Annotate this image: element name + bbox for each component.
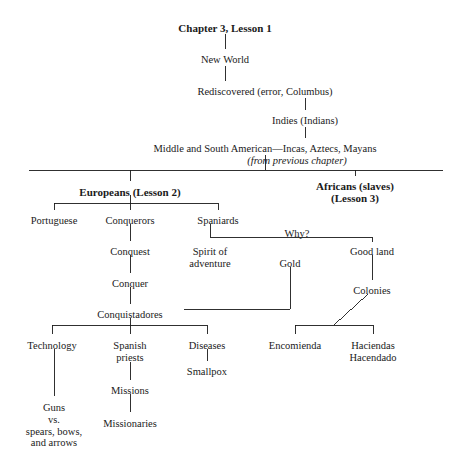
node-portuguese: Portuguese: [31, 215, 78, 227]
node-conquistadores-line: Conquistadores: [97, 309, 162, 321]
node-haciendas-line: Hacendado: [349, 352, 396, 364]
edge-gold-to-conquistadores: [184, 267, 290, 309]
node-conquerors-line: Conquerors: [106, 215, 155, 227]
node-europeans-line: Europeans (Lesson 2): [79, 186, 180, 198]
node-diseases: Diseases: [189, 340, 226, 352]
node-spirit-line: Spirit of: [189, 246, 230, 258]
node-why: Why?: [284, 228, 309, 240]
node-conquistadores: Conquistadores: [97, 309, 162, 321]
node-technology-line: Technology: [27, 340, 76, 352]
node-conquer-line: Conquer: [112, 278, 148, 290]
node-haciendas-line: Haciendas: [349, 340, 396, 352]
outline-diagram: Chapter 3, Lesson 1New WorldRediscovered…: [0, 0, 455, 469]
node-spanish-priests: Spanishpriests: [113, 340, 146, 364]
node-guns-vs-line: spears, bows,: [26, 426, 82, 438]
node-title: Chapter 3, Lesson 1: [178, 22, 271, 34]
node-indies-line: Indies (Indians): [272, 115, 338, 127]
node-spirit: Spirit ofadventure: [189, 246, 230, 270]
node-conquest-line: Conquest: [110, 246, 150, 258]
node-diseases-line: Diseases: [189, 340, 226, 352]
node-new-world: New World: [201, 54, 249, 66]
node-gold-line: Gold: [280, 258, 301, 270]
node-haciendas: HaciendasHacendado: [349, 340, 396, 364]
node-africans: Africans (slaves)(Lesson 3): [316, 180, 394, 205]
node-guns-vs-line: Guns: [26, 402, 82, 414]
node-new-world-line: New World: [201, 54, 249, 66]
node-middle-south: Middle and South American—Incas, Aztecs,…: [153, 143, 376, 155]
node-indies: Indies (Indians): [272, 115, 338, 127]
node-from-prev-line: (from previous chapter): [247, 155, 347, 167]
node-conquerors: Conquerors: [106, 215, 155, 227]
node-spanish-priests-line: Spanish: [113, 340, 146, 352]
node-africans-line: Africans (slaves): [316, 180, 394, 192]
node-rediscovered: Rediscovered (error, Columbus): [197, 86, 332, 98]
edge-colonies-to-enc-bar: [334, 294, 368, 325]
node-conquer: Conquer: [112, 278, 148, 290]
node-rediscovered-line: Rediscovered (error, Columbus): [197, 86, 332, 98]
node-colonies-line: Colonies: [353, 285, 390, 297]
node-portuguese-line: Portuguese: [31, 215, 78, 227]
node-technology: Technology: [27, 340, 76, 352]
node-colonies: Colonies: [353, 285, 390, 297]
node-encomienda: Encomienda: [269, 340, 321, 352]
node-guns-vs-line: vs.: [26, 414, 82, 426]
node-from-prev: (from previous chapter): [247, 155, 347, 167]
node-guns-vs-line: and arrows: [26, 437, 82, 449]
node-conquest: Conquest: [110, 246, 150, 258]
node-why-line: Why?: [284, 228, 309, 240]
node-spirit-line: adventure: [189, 258, 230, 270]
node-missionaries: Missionaries: [103, 418, 157, 430]
node-spaniards-line: Spaniards: [197, 215, 238, 227]
node-europeans: Europeans (Lesson 2): [79, 186, 180, 198]
node-missions: Missions: [111, 385, 149, 397]
node-smallpox-line: Smallpox: [187, 366, 227, 378]
node-gold: Gold: [280, 258, 301, 270]
node-title-line: Chapter 3, Lesson 1: [178, 22, 271, 34]
node-good-land-line: Good land: [350, 246, 394, 258]
node-guns-vs: Gunsvs.spears, bows,and arrows: [26, 402, 82, 449]
node-africans-line: (Lesson 3): [316, 192, 394, 204]
connector-lines: [0, 0, 455, 469]
node-encomienda-line: Encomienda: [269, 340, 321, 352]
node-middle-south-line: Middle and South American—Incas, Aztecs,…: [153, 143, 376, 155]
node-smallpox: Smallpox: [187, 366, 227, 378]
node-spaniards: Spaniards: [197, 215, 238, 227]
node-missionaries-line: Missionaries: [103, 418, 157, 430]
node-spanish-priests-line: priests: [113, 352, 146, 364]
node-missions-line: Missions: [111, 385, 149, 397]
node-good-land: Good land: [350, 246, 394, 258]
